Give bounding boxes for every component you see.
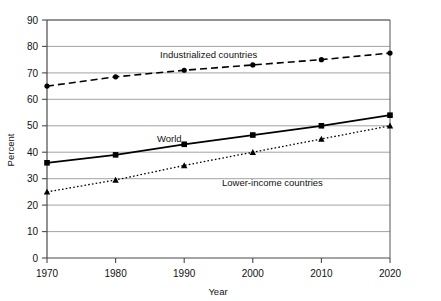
data-point: [112, 177, 118, 183]
data-point: [44, 160, 50, 166]
data-point: [250, 62, 255, 67]
x-tick-label-1980: 1980: [104, 268, 127, 279]
data-point: [44, 189, 50, 195]
y-tick-label-70: 70: [27, 68, 39, 79]
series-label-lower-income: Lower-income countries: [222, 177, 323, 188]
data-point: [181, 141, 187, 147]
series-world: [44, 112, 393, 165]
series-line: [47, 115, 390, 163]
x-tick-label-2020: 2020: [379, 268, 402, 279]
data-point: [250, 132, 256, 138]
y-tick-label-20: 20: [27, 200, 39, 211]
x-tick-label-1970: 1970: [36, 268, 59, 279]
y-tick-label-30: 30: [27, 173, 39, 184]
series-label-world: World: [157, 133, 182, 144]
y-tickmarks: [42, 20, 47, 258]
data-point: [387, 112, 393, 118]
y-tick-label-40: 40: [27, 147, 39, 158]
series-line: [47, 126, 390, 192]
y-tick-label-80: 80: [27, 41, 39, 52]
x-axis-title: Year: [208, 286, 227, 297]
chart-canvas: 90 80 70 60 50 40 30 20 10 0 1970 1980 1…: [0, 0, 441, 301]
data-point: [113, 152, 119, 158]
data-point: [44, 84, 49, 89]
x-tick-label-1990: 1990: [173, 268, 196, 279]
data-series-layer: [44, 50, 393, 194]
x-tickmarks: [47, 258, 390, 263]
y-tick-label-50: 50: [27, 120, 39, 131]
series-lower-income-countries: [44, 123, 393, 195]
data-point: [319, 123, 325, 129]
y-axis-title: Percent: [5, 133, 16, 166]
y-tick-label-60: 60: [27, 94, 39, 105]
y-tick-label-10: 10: [27, 226, 39, 237]
line-chart: 90 80 70 60 50 40 30 20 10 0 1970 1980 1…: [0, 0, 441, 301]
data-point: [387, 50, 392, 55]
y-tick-label-90: 90: [27, 15, 39, 26]
data-point: [113, 74, 118, 79]
y-tick-labels: 90 80 70 60 50 40 30 20 10 0: [27, 15, 39, 264]
x-tick-label-2010: 2010: [310, 268, 333, 279]
data-point: [319, 57, 324, 62]
y-tick-label-0: 0: [32, 253, 38, 264]
data-point: [182, 68, 187, 73]
series-label-industrialized: Industrialized countries: [160, 49, 257, 60]
x-tick-labels: 1970 1980 1990 2000 2010 2020: [36, 268, 402, 279]
x-tick-label-2000: 2000: [242, 268, 265, 279]
